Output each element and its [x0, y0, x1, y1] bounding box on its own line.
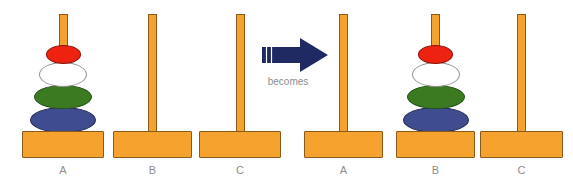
peg-base: [480, 131, 563, 158]
transition-arrow-group: becomes: [262, 38, 328, 72]
peg-a-after[interactable]: A: [304, 0, 383, 184]
peg-base: [22, 131, 104, 158]
peg-post: [339, 14, 348, 134]
peg-label-c: C: [480, 164, 563, 176]
peg-base: [304, 131, 383, 158]
peg-a-before[interactable]: A: [22, 0, 104, 184]
peg-c-before[interactable]: C: [199, 0, 281, 184]
peg-post: [148, 14, 157, 134]
peg-label-b: B: [396, 164, 475, 176]
disk-blue[interactable]: [403, 107, 469, 133]
peg-b-before[interactable]: B: [113, 0, 192, 184]
disk-white[interactable]: [39, 62, 87, 87]
tower-of-hanoi-diagram: ABC ABC becomes: [0, 0, 573, 184]
peg-label-c: C: [199, 164, 281, 176]
disk-green[interactable]: [34, 85, 92, 109]
peg-post: [236, 14, 245, 134]
disk-red[interactable]: [46, 45, 81, 64]
peg-label-a: A: [304, 164, 383, 176]
peg-base: [113, 131, 192, 158]
disk-blue[interactable]: [30, 107, 96, 133]
peg-label-a: A: [22, 164, 104, 176]
peg-label-b: B: [113, 164, 192, 176]
disk-red[interactable]: [418, 45, 453, 64]
peg-base: [199, 131, 281, 158]
disk-green[interactable]: [407, 85, 465, 109]
peg-b-after[interactable]: B: [396, 0, 475, 184]
peg-base: [396, 131, 475, 158]
peg-c-after[interactable]: C: [480, 0, 563, 184]
disk-white[interactable]: [412, 62, 460, 87]
right-arrow-icon: [262, 38, 328, 72]
becomes-label: becomes: [260, 76, 316, 87]
peg-post: [517, 14, 526, 134]
